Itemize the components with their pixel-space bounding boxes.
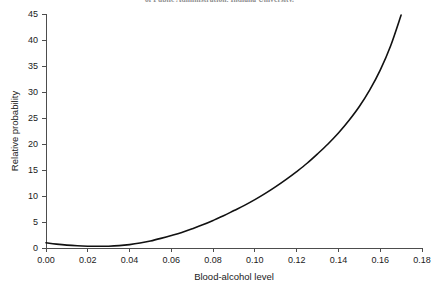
- x-tick-label: 0.12: [288, 255, 306, 265]
- x-tick-label: 0.08: [204, 255, 222, 265]
- x-axis-title: Blood-alcohol level: [194, 271, 274, 282]
- x-tick-label: 0.02: [79, 255, 97, 265]
- y-tick-label: 45: [28, 9, 38, 19]
- x-tick-label: 0.16: [371, 255, 389, 265]
- chart-figure: of Public Administration, Indiana Univer…: [0, 0, 439, 289]
- x-axis-tick-labels: 0.000.020.040.060.080.100.120.140.160.18: [37, 255, 431, 265]
- y-tick-label: 20: [28, 139, 38, 149]
- y-tick-label: 15: [28, 165, 38, 175]
- y-tick-label: 5: [33, 217, 38, 227]
- x-tick-label: 0.06: [163, 255, 181, 265]
- y-axis-tick-labels: 051015202530354045: [28, 9, 38, 253]
- y-tick-label: 25: [28, 113, 38, 123]
- relative-probability-vs-blood-alcohol-chart: 051015202530354045 Relative probability …: [0, 0, 439, 289]
- x-axis-group: 0.000.020.040.060.080.100.120.140.160.18…: [37, 248, 431, 282]
- y-tick-label: 0: [33, 243, 38, 253]
- x-tick-label: 0.04: [121, 255, 139, 265]
- y-axis-ticks: [42, 14, 46, 248]
- y-tick-label: 40: [28, 35, 38, 45]
- x-tick-label: 0.18: [413, 255, 431, 265]
- y-tick-label: 10: [28, 191, 38, 201]
- y-tick-label: 30: [28, 87, 38, 97]
- x-axis-ticks: [46, 248, 422, 252]
- x-tick-label: 0.00: [37, 255, 55, 265]
- y-tick-label: 35: [28, 61, 38, 71]
- probability-curve: [46, 15, 401, 246]
- y-axis-group: 051015202530354045 Relative probability: [9, 9, 46, 253]
- x-tick-label: 0.10: [246, 255, 264, 265]
- x-tick-label: 0.14: [330, 255, 348, 265]
- y-axis-title: Relative probability: [9, 91, 20, 172]
- plot-series-group: [46, 15, 401, 246]
- cropped-caption-text: of Public Administration, Indiana Univer…: [0, 0, 439, 2]
